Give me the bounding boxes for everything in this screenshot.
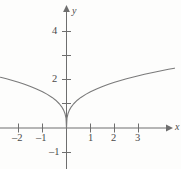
x-axis-label: x — [175, 122, 179, 132]
math-figure: ) y x 4 2 –1 –2 –1 1 2 3 — [0, 0, 181, 169]
y-axis-label: y — [72, 6, 76, 16]
coordinate-plot — [0, 0, 181, 169]
y-tick-label--1: –1 — [49, 147, 60, 158]
y-axis-arrowhead — [63, 5, 70, 12]
y-tick-label-2: 2 — [52, 74, 57, 85]
x-tick-label-1: 1 — [88, 133, 93, 144]
x-axis-arrowhead — [166, 125, 173, 132]
axes-group — [0, 5, 173, 169]
x-tick-label-3: 3 — [135, 133, 140, 144]
x-tick-label--1: –1 — [36, 133, 47, 144]
function-curve — [1, 68, 175, 128]
x-tick-label--2: –2 — [12, 133, 23, 144]
y-tick-label-4: 4 — [52, 26, 57, 37]
x-tick-label-2: 2 — [111, 133, 116, 144]
